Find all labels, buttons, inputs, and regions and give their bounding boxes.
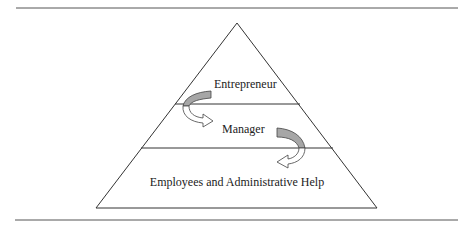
pyramid-diagram: Entrepreneur Manager Employees and Admin… bbox=[0, 0, 472, 228]
level-label-employees: Employees and Administrative Help bbox=[150, 175, 324, 189]
level-label-manager: Manager bbox=[222, 122, 265, 136]
level-label-entrepreneur: Entrepreneur bbox=[214, 77, 277, 91]
arrow-entrepreneur-to-manager-icon bbox=[183, 91, 213, 127]
